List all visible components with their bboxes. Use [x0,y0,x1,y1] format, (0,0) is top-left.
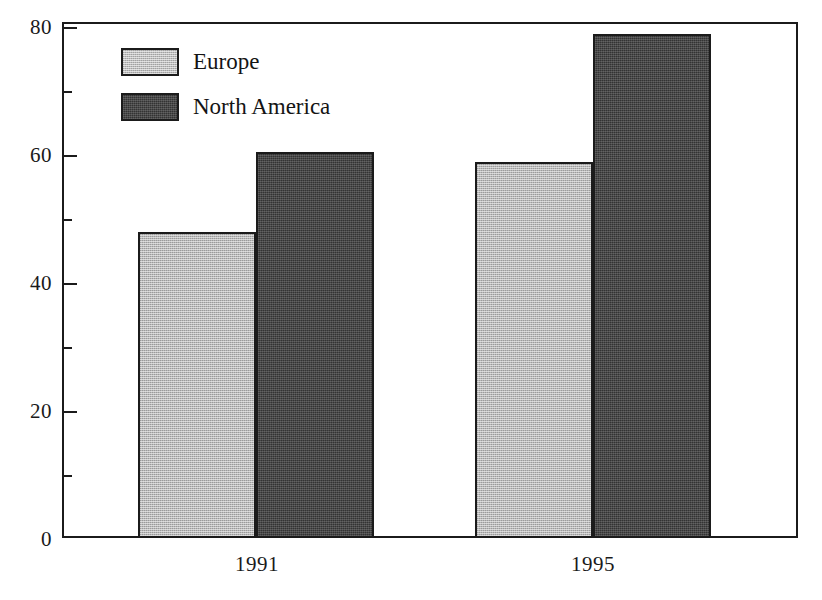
y-axis-label-80: 80 [4,17,52,38]
y-axis-label-wrap-40: 40 [0,273,52,294]
y-axis-label-0: 0 [4,529,52,550]
y-axis-tick-40 [62,283,77,285]
y-axis-label-wrap-80: 80 [0,17,52,38]
y-axis-tick-20 [62,411,77,413]
y-axis-label-wrap-0: 0 [0,529,52,550]
y-axis-tick-60 [62,155,77,157]
legend-label-north-america: North America [193,92,330,122]
y-axis-label-wrap-60: 60 [0,145,52,166]
legend-swatch-north-america-icon [121,93,179,121]
y-axis-minor-tick-10 [62,475,72,477]
y-axis-minor-tick-50 [62,219,72,221]
bar-chart: 80 60 40 20 0 1991 1995 Europe North Ame… [0,0,822,600]
y-axis-minor-tick-30 [62,347,72,349]
y-axis-minor-tick-70 [62,91,72,93]
legend-label-europe: Europe [193,47,259,77]
x-axis-label-1995: 1995 [513,552,673,576]
y-axis-tick-80 [62,27,77,29]
x-axis-label-1991: 1991 [177,552,337,576]
y-axis-label-60: 60 [4,145,52,166]
y-axis-label-wrap-20: 20 [0,401,52,422]
legend-swatch-europe-icon [121,48,179,76]
y-axis-label-40: 40 [4,273,52,294]
y-axis-label-20: 20 [4,401,52,422]
